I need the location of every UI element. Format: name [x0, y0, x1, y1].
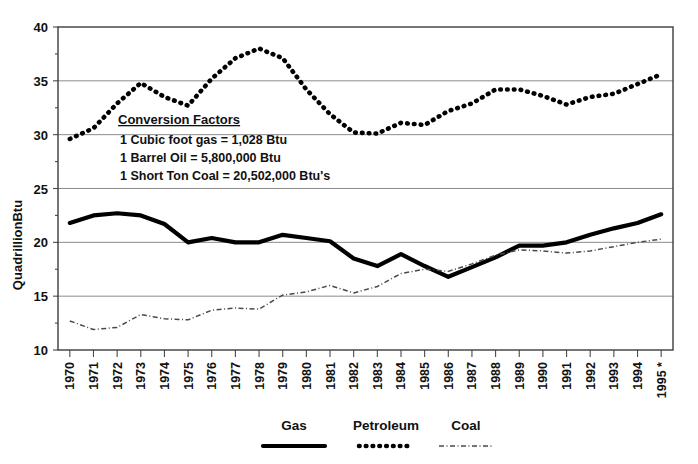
y-tick-label: 25 — [34, 182, 48, 197]
x-tick-label: 1973 — [134, 362, 148, 390]
x-tick-label: 1992 — [584, 362, 598, 390]
x-tick-label: 1985 — [418, 362, 432, 390]
x-tick-label: 1977 — [229, 362, 243, 390]
legend-label-gas: Gas — [281, 418, 307, 433]
y-axis-title: QuadrillionBtu — [10, 200, 25, 290]
x-tick-label: 1986 — [442, 362, 456, 390]
y-tick-label: 15 — [34, 289, 48, 304]
annotation-line: 1 Barrel Oil = 5,800,000 Btu — [120, 151, 281, 165]
x-tick-label: 1995 * — [655, 362, 669, 398]
y-tick-label: 35 — [34, 74, 48, 89]
x-tick-label: 1988 — [489, 362, 503, 390]
y-tick-label: 30 — [34, 128, 48, 143]
x-tick-label: 1981 — [324, 362, 338, 390]
y-tick-label: 10 — [34, 343, 48, 358]
x-tick-label: 1976 — [205, 362, 219, 390]
x-tick-label: 1984 — [394, 362, 408, 390]
annotation-line: 1 Short Ton Coal = 20,502,000 Btu's — [120, 169, 330, 183]
energy-consumption-chart: 10152025303540 1970197119721973197419751… — [0, 0, 698, 464]
legend-label-petroleum: Petroleum — [353, 418, 419, 433]
legend-label-coal: Coal — [451, 418, 480, 433]
x-tick-label: 1989 — [513, 362, 527, 390]
x-tick-label: 1983 — [371, 362, 385, 390]
x-tick-label: 1980 — [300, 362, 314, 390]
y-tick-label: 40 — [34, 20, 48, 35]
x-tick-label: 1982 — [347, 362, 361, 390]
x-tick-label: 1971 — [87, 362, 101, 390]
x-tick-label: 1990 — [536, 362, 550, 390]
x-tick-label: 1994 — [631, 362, 645, 390]
x-tick-label: 1991 — [560, 362, 574, 390]
chart-canvas: 10152025303540 1970197119721973197419751… — [0, 0, 698, 464]
annotation-line: 1 Cubic foot gas = 1,028 Btu — [120, 133, 287, 147]
x-tick-label: 1978 — [253, 362, 267, 390]
x-tick-label: 1972 — [111, 362, 125, 390]
y-tick-label: 20 — [34, 235, 48, 250]
x-tick-label: 1970 — [63, 362, 77, 390]
x-tick-label: 1975 — [182, 362, 196, 390]
x-tick-label: 1979 — [276, 362, 290, 390]
x-tick-label: 1993 — [607, 362, 621, 390]
annotation-heading: Conversion Factors — [118, 112, 240, 127]
x-tick-label: 1987 — [465, 362, 479, 390]
x-tick-label: 1974 — [158, 362, 172, 390]
